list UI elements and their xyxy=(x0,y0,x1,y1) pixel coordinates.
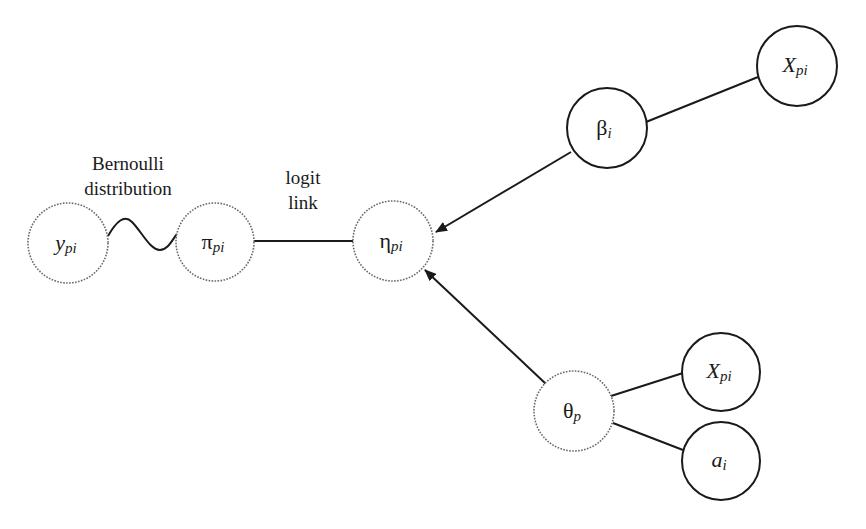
node-eta-sub: pi xyxy=(390,238,403,254)
bernoulli-label-line1: Bernoulli xyxy=(92,153,164,174)
node-y-sub: pi xyxy=(64,240,77,256)
node-a: ai xyxy=(682,422,760,500)
logit-label-line1: logit xyxy=(286,167,322,188)
node-theta-main: θ xyxy=(563,398,574,423)
node-x-top-sub: pi xyxy=(795,62,808,78)
graphical-model-diagram: Bernoulli distribution logit link ypi πp… xyxy=(0,0,866,529)
logit-label-line2: link xyxy=(288,192,318,213)
node-beta-sub: i xyxy=(608,125,612,141)
node-a-main: a xyxy=(711,447,722,472)
node-pi: πpi xyxy=(176,203,254,281)
node-pi-main: π xyxy=(202,229,213,254)
a-to-theta-edge xyxy=(613,423,683,450)
xbottom-to-theta-edge xyxy=(611,373,683,396)
node-eta: ηpi xyxy=(353,201,433,281)
node-y-main: y xyxy=(53,230,65,255)
node-x-top: Xpi xyxy=(757,26,837,106)
node-x-bottom: Xpi xyxy=(682,333,760,411)
node-a-sub: i xyxy=(722,457,726,473)
bernoulli-label-line2: distribution xyxy=(84,178,172,199)
node-beta-main: β xyxy=(596,115,607,140)
node-theta: θp xyxy=(534,371,614,451)
node-x-bottom-sub: pi xyxy=(719,368,732,384)
node-theta-sub: p xyxy=(573,408,582,424)
theta-to-eta-arrow xyxy=(425,270,546,384)
bernoulli-wave-edge xyxy=(108,219,177,250)
node-pi-sub: pi xyxy=(212,239,225,255)
node-beta: βi xyxy=(567,88,647,168)
xtop-to-beta-edge xyxy=(646,77,758,122)
beta-to-eta-arrow xyxy=(436,152,571,232)
node-y: ypi xyxy=(28,203,108,283)
node-eta-main: η xyxy=(379,228,391,253)
